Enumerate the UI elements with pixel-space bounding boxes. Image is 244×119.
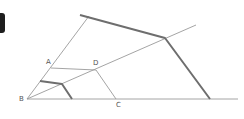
point-label-a: A — [46, 59, 51, 66]
inner-polyline — [40, 81, 72, 99]
point-label-d: D — [93, 60, 98, 67]
geometry-diagram — [0, 0, 244, 119]
point-label-b: B — [19, 96, 24, 103]
point-label-c: C — [116, 102, 121, 109]
segment-ad — [51, 68, 96, 70]
segment-dc — [96, 70, 116, 99]
middle-ray — [27, 25, 196, 99]
upper-ray — [27, 16, 89, 99]
